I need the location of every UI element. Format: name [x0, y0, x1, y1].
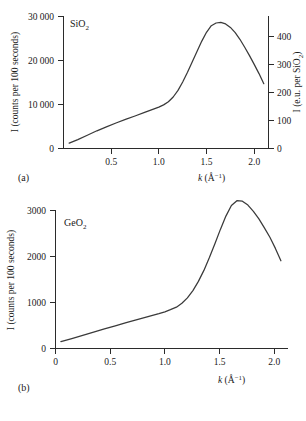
panel-a-yticklabel-10000: 10 000 — [28, 100, 54, 110]
panel-a-right-yticklabel-100: 100 — [277, 116, 292, 126]
panel-a-xticklabel-0.5: 0.5 — [105, 157, 117, 167]
panel-a-xticklabel-2.0: 2.0 — [248, 157, 260, 167]
panel-a-yticklabel-30000: 30 000 — [28, 12, 54, 22]
panel-a-species-subscript: 2 — [86, 24, 90, 32]
panel-a-right-y-close: ) — [292, 52, 303, 55]
panel-a-right-yticklabel-400: 400 — [277, 32, 292, 42]
panel-b-xticklabel-0.5: 0.5 — [104, 357, 116, 367]
panel-a-species-text: SiO — [70, 18, 86, 29]
panel-a-x-axis-title: k (Å−1) — [198, 172, 225, 185]
panel-b-xticklabel-1.5: 1.5 — [214, 357, 226, 367]
panel-b-label: (b) — [18, 382, 30, 394]
panel-b-yticklabel-1000: 1000 — [27, 298, 46, 308]
panel-a-species-label: SiO2 — [70, 18, 90, 32]
panel-a-right-yticklabel-200: 200 — [277, 88, 292, 98]
panel-b-curve — [61, 201, 281, 342]
panel-a-y-axis-title: I (counts per 100 seconds) — [10, 32, 21, 132]
panel-b-x-unit-open: (Å — [222, 374, 235, 386]
panel-b-xticklabel-0: 0 — [53, 357, 58, 367]
panel-a-right-yticklabel-0: 0 — [277, 144, 282, 154]
panel-a-label: (a) — [18, 172, 29, 184]
panel-b-yticklabel-0: 0 — [41, 344, 46, 354]
panel-a-xticklabel-1.0: 1.0 — [153, 157, 165, 167]
panel-b-yticklabel-3000: 3000 — [27, 206, 46, 216]
panel-a-plot: 0 10 000 20 000 30 000 0 100 200 300 400… — [0, 0, 306, 200]
panel-b-species-label: GeO2 — [64, 217, 87, 231]
panel-a-right-y-open: I (e.u. per SiO — [292, 58, 303, 112]
panel-b-species-text: GeO — [64, 217, 83, 228]
panel-a-yticklabel-20000: 20 000 — [28, 56, 54, 66]
panel-b-y-axis-title: I (counts per 100 seconds) — [6, 230, 17, 330]
panel-b-xticklabel-1.0: 1.0 — [159, 357, 171, 367]
panel-a-curve — [69, 22, 264, 143]
panel-b-yticklabel-2000: 2000 — [27, 252, 46, 262]
panel-b-geo2: 0 1000 2000 3000 0 0.5 1.0 1.5 2.0 GeO2 … — [0, 196, 306, 421]
panel-b-plot: 0 1000 2000 3000 0 0.5 1.0 1.5 2.0 GeO2 … — [0, 196, 306, 421]
panel-b-x-axis-title: k (Å−1) — [218, 374, 245, 387]
panel-b-x-unit-close: ) — [242, 375, 245, 386]
figure-scattered-intensity: 0 10 000 20 000 30 000 0 100 200 300 400… — [0, 0, 306, 421]
panel-a-x-unit-open: (Å — [202, 172, 215, 184]
panel-a-yticklabel-0: 0 — [49, 144, 54, 154]
panel-a-right-y-axis-title: I (e.u. per SiO2) — [292, 52, 305, 113]
panel-a-x-unit-close: ) — [222, 173, 225, 184]
panel-a-right-yticklabel-300: 300 — [277, 60, 292, 70]
panel-a-xticklabel-1.5: 1.5 — [201, 157, 213, 167]
panel-a-sio2: 0 10 000 20 000 30 000 0 100 200 300 400… — [0, 0, 306, 200]
panel-b-xticklabel-2.0: 2.0 — [268, 357, 280, 367]
panel-b-species-subscript: 2 — [83, 223, 87, 231]
